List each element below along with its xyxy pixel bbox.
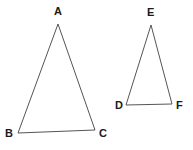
vertex-label-e: E xyxy=(147,7,154,18)
vertex-label-d: D xyxy=(115,100,123,111)
vertex-label-b: B xyxy=(5,128,13,139)
geometry-figure: A B C E D F xyxy=(0,0,193,150)
vertex-label-f: F xyxy=(176,100,183,111)
vertex-label-c: C xyxy=(99,128,107,139)
triangles-canvas xyxy=(0,0,193,150)
vertex-label-a: A xyxy=(54,6,62,17)
